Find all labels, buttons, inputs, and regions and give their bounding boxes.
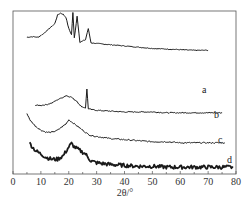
x-axis-ticks — [13, 171, 236, 174]
x-tick-label: 0 — [11, 176, 16, 187]
curve-a — [27, 13, 208, 51]
x-tick-label: 30 — [92, 176, 102, 187]
x-axis-title: 2θ/° — [117, 187, 134, 198]
x-tick-label: 40 — [120, 176, 130, 187]
curve-b — [35, 89, 222, 113]
x-tick-label: 80 — [231, 176, 241, 187]
series-label-a: a — [202, 84, 207, 95]
x-tick-label: 20 — [64, 176, 74, 187]
series-label-d: d — [227, 154, 232, 165]
x-tick-label: 10 — [36, 176, 46, 187]
xrd-chart: 01020304050607080 2θ/° a b c d — [0, 0, 250, 208]
series-label-c: c — [218, 134, 223, 145]
x-tick-label: 60 — [175, 176, 185, 187]
x-tick-label: 70 — [203, 176, 213, 187]
x-tick-label: 50 — [147, 176, 157, 187]
series-label-b: b — [214, 109, 219, 120]
curve-c — [27, 114, 225, 144]
curve-d — [30, 142, 234, 169]
x-axis-tick-labels: 01020304050607080 — [11, 176, 242, 187]
